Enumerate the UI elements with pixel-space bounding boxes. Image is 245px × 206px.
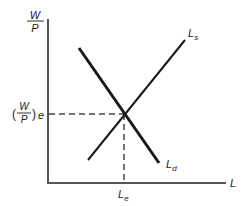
equilibrium-quantity-label: Le (118, 188, 129, 203)
equilibrium-wage-label: ( W P ) e (12, 101, 44, 125)
eq-wage-paren-close: ) (32, 107, 36, 121)
y-axis-label: W P (27, 9, 44, 34)
demand-curve (79, 48, 159, 163)
y-label-denominator: P (31, 22, 39, 34)
supply-curve-label: Ls (188, 27, 198, 42)
demand-curve-label: Ld (166, 158, 177, 173)
eq-wage-denominator: P (21, 114, 28, 125)
eq-quantity-sub: e (124, 194, 129, 203)
y-label-numerator: W (30, 9, 42, 21)
supply-label-sub: s (194, 33, 198, 42)
labor-market-diagram: W P Ls Ld L Le ( W P ) e (0, 0, 245, 206)
demand-label-sub: d (172, 164, 177, 173)
eq-wage-numerator: W (19, 101, 30, 112)
supply-curve (88, 40, 185, 160)
x-axis-label: L (230, 177, 236, 189)
eq-wage-paren-open: ( (12, 107, 16, 121)
eq-wage-sub: e (38, 109, 44, 121)
